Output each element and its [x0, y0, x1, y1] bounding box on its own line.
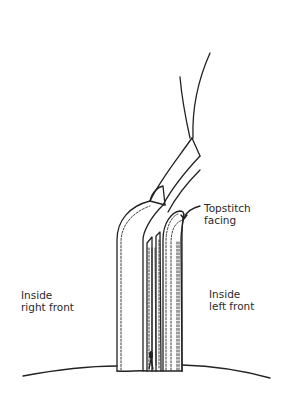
- zipper-tape-left: [147, 237, 152, 371]
- thread-right: [193, 53, 210, 138]
- right-front-label-line1: Inside: [21, 289, 74, 301]
- facing-band-inner: [163, 156, 200, 205]
- inside-right-front-label: Inside right front: [21, 289, 74, 313]
- topstitch-label-line2: facing: [204, 214, 251, 226]
- zipper-tape-right: [156, 232, 161, 371]
- right-front-strip-outline: [117, 201, 165, 371]
- facing-band-inner2: [168, 170, 200, 212]
- left-front-label-line2: left front: [209, 300, 254, 312]
- inside-left-front-label: Inside left front: [209, 288, 254, 312]
- right-front-label-line2: right front: [21, 301, 74, 313]
- hem-curve-left: [23, 366, 117, 376]
- left-front-stitching-1: [166, 214, 178, 370]
- topstitch-facing-label: Topstitch facing: [204, 202, 251, 226]
- left-front-label-line1: Inside: [209, 288, 254, 300]
- left-front-facing-edge: [182, 214, 184, 371]
- zipper-pull: [149, 351, 153, 359]
- hem-curve-right: [182, 365, 270, 378]
- facing-band-edge: [192, 138, 200, 156]
- strip-bottom-edge: [117, 371, 182, 372]
- sewing-diagram: Topstitch facing Inside right front Insi…: [0, 0, 284, 406]
- topstitch-label-line1: Topstitch: [204, 202, 251, 214]
- thread-left: [180, 77, 190, 138]
